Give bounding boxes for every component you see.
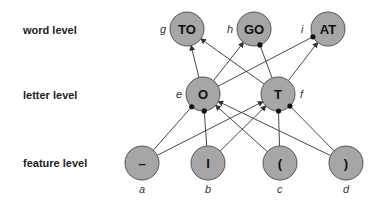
- edge-b-e: [204, 111, 207, 146]
- node-id-label: e: [176, 88, 182, 100]
- node-f: Tf: [261, 77, 304, 111]
- node-id-label: f: [300, 88, 304, 100]
- node-b: Ib: [191, 146, 225, 195]
- node-e: Oe: [176, 77, 220, 111]
- node-label: O: [198, 87, 208, 102]
- node-i: ATi: [301, 12, 345, 46]
- node-id-label: a: [139, 183, 145, 195]
- node-id-label: i: [301, 23, 304, 35]
- node-c: (c: [263, 146, 297, 195]
- network-diagram: TOgGOhATiOeTf–aIb(c)d: [0, 0, 378, 208]
- node-id-label: d: [343, 183, 350, 195]
- edge-a-e: [153, 107, 191, 151]
- node-label: AT: [320, 22, 336, 37]
- edge-f-i: [288, 42, 317, 80]
- node-h: GOh: [227, 12, 271, 46]
- node-a: –a: [125, 146, 159, 195]
- edge-e-g: [191, 46, 199, 78]
- inhibitory-dot-icon: [276, 108, 281, 113]
- node-d: )d: [329, 146, 363, 195]
- node-id-label: h: [227, 23, 233, 35]
- node-label: I: [206, 156, 210, 171]
- node-label: –: [138, 156, 145, 171]
- node-id-label: c: [277, 183, 283, 195]
- node-g: TOg: [160, 12, 204, 46]
- node-label: (: [278, 156, 283, 171]
- inhibitory-dot-icon: [257, 42, 262, 47]
- node-id-label: g: [160, 23, 167, 35]
- node-id-label: b: [205, 183, 211, 195]
- node-label: ): [344, 156, 348, 171]
- edge-f-h: [260, 45, 272, 78]
- node-label: TO: [178, 22, 196, 37]
- node-label: GO: [244, 22, 264, 37]
- nodes-layer: TOgGOhATiOeTf–aIb(c)d: [125, 12, 363, 195]
- inhibitory-dot-icon: [202, 108, 207, 113]
- edge-c-f: [278, 111, 279, 146]
- inhibitory-dot-icon: [189, 104, 194, 109]
- edge-d-f: [290, 106, 334, 151]
- node-label: T: [274, 87, 282, 102]
- inhibitory-dot-icon: [310, 34, 315, 39]
- inhibitory-dot-icon: [287, 104, 292, 109]
